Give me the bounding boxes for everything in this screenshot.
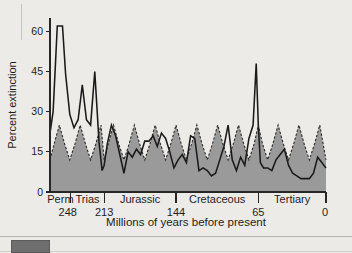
y-axis-tick-labels: 015304560	[31, 25, 43, 198]
period-label-cretaceous: Cretaceous	[189, 193, 246, 205]
y-tick-label-60: 60	[31, 25, 43, 37]
baseline-area-fill	[50, 125, 326, 192]
horizontal-scrollbar[interactable]	[0, 236, 352, 252]
scrollbar-track[interactable]	[0, 239, 352, 249]
extinction-chart-figure: 015304560 PermTriasJurassicCretaceousTer…	[0, 0, 352, 232]
y-tick-label-15: 15	[31, 145, 43, 157]
x-axis-title: Millions of years before present	[106, 216, 267, 228]
chart-svg: 015304560 PermTriasJurassicCretaceousTer…	[0, 0, 352, 232]
period-label-jurassic: Jurassic	[120, 193, 161, 205]
y-axis-title: Percent extinction	[6, 61, 18, 148]
y-tick-label-45: 45	[31, 65, 43, 77]
y-tick-label-30: 30	[31, 105, 43, 117]
period-label-trias: Trias	[75, 193, 100, 205]
period-label-perm: Perm	[47, 193, 73, 205]
period-label-tertiary: Tertiary	[274, 193, 311, 205]
age-label-248: 248	[59, 206, 77, 218]
y-tick-label-0: 0	[37, 186, 43, 198]
age-label-0: 0	[322, 206, 328, 218]
scrollbar-thumb[interactable]	[11, 240, 50, 253]
x-axis-period-labels: PermTriasJurassicCretaceousTertiary	[47, 193, 310, 205]
